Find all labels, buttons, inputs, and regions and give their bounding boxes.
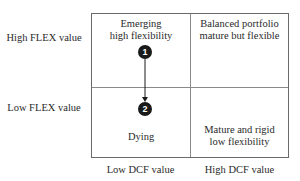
marker-2-icon: 2 (138, 102, 152, 116)
transition-arrow (0, 0, 300, 181)
marker-1-icon: 1 (138, 45, 152, 59)
col-label-high-dcf: High DCF value (190, 164, 289, 176)
col-label-low-dcf: Low DCF value (91, 164, 190, 176)
